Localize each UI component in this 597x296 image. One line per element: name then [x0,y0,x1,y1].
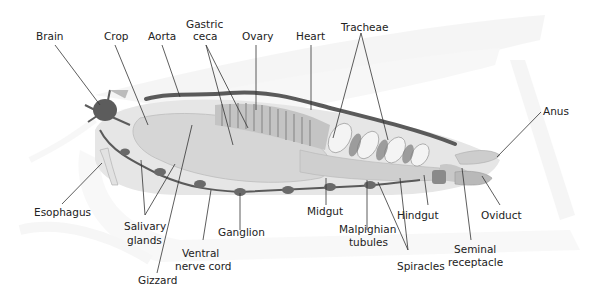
label-ovary: Ovary [242,30,273,42]
label-malpighian-tubules-line2: tubules [349,236,388,248]
label-gastric-ceca-line2: ceca [193,30,217,42]
label-malpighian-tubules-line1: Malpighian [339,223,396,235]
label-gastric-ceca-line1: Gastric [186,18,223,30]
label-spiracles: Spiracles [397,260,445,272]
label-crop: Crop [104,30,129,42]
label-hindgut: Hindgut [397,209,439,221]
label-ventral-nerve-cord-line1: Ventral [182,247,219,259]
label-midgut: Midgut [307,205,343,217]
label-anus: Anus [543,105,569,117]
label-oviduct: Oviduct [481,209,522,221]
insect-anatomy-diagram: Brain Crop Aorta Gastric ceca Ovary Hear… [0,0,597,296]
label-heart: Heart [296,30,325,42]
label-ventral-nerve-cord-line2: nerve cord [175,260,231,272]
label-seminal-receptacle-line1: Seminal [454,243,496,255]
label-ganglion: Ganglion [218,226,265,238]
label-seminal-receptacle-line2: receptacle [448,256,503,268]
diagram-svg: Brain Crop Aorta Gastric ceca Ovary Hear… [0,0,597,296]
label-gizzard: Gizzard [138,274,177,286]
label-esophagus: Esophagus [34,206,91,218]
label-salivary-glands-line2: glands [127,234,162,246]
label-tracheae: Tracheae [340,21,388,33]
label-aorta: Aorta [148,30,176,42]
label-brain: Brain [36,30,64,42]
label-salivary-glands-line1: Salivary [124,220,166,232]
